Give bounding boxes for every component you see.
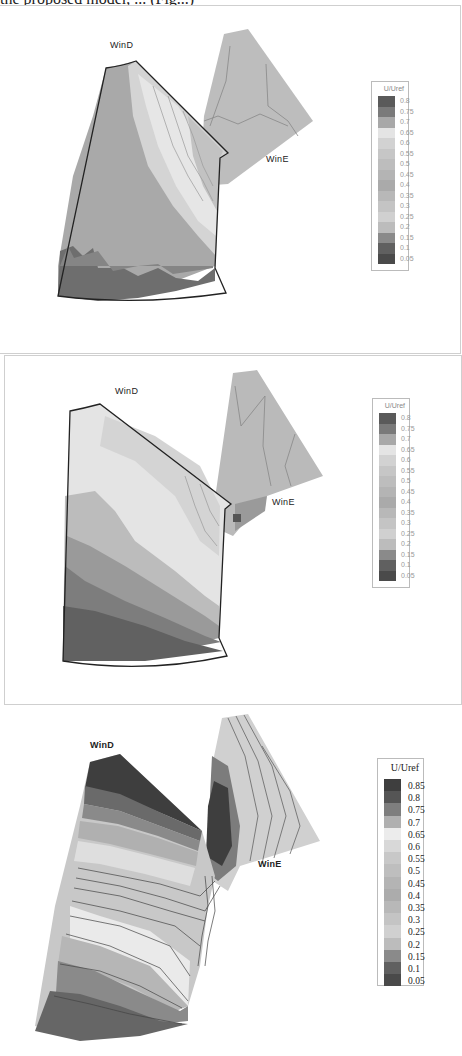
legend-title: U/Uref (384, 85, 404, 92)
legend-swatch (378, 149, 395, 160)
legend-swatch (379, 571, 396, 582)
legend-swatch (384, 803, 401, 815)
legend-swatch (379, 434, 396, 445)
legend-value: 0.1 (401, 561, 411, 568)
legend-value: 0.5 (400, 160, 410, 167)
legend-swatch (378, 159, 395, 170)
legend-value: 0.65 (400, 129, 414, 136)
legend-value: 0.45 (401, 488, 415, 495)
legend-swatch (384, 852, 401, 864)
legend-swatch (384, 816, 401, 828)
legend-value: 0.5 (401, 477, 411, 484)
legend-swatch (378, 128, 395, 139)
legend-value: 0.05 (401, 572, 415, 579)
legend-value: 0.2 (400, 223, 410, 230)
legend-swatch (378, 212, 395, 223)
legend-swatch (379, 518, 396, 529)
legend-value: 0.75 (401, 425, 415, 432)
legend-value: 0.8 (408, 793, 420, 803)
legend-3: U/Uref 0.850.80.750.70.650.60.550.50.450… (377, 758, 424, 986)
legend-swatch (378, 191, 395, 202)
legend-value: 0.2 (401, 540, 411, 547)
legend-swatch (379, 497, 396, 508)
legend-value: 0.55 (401, 467, 415, 474)
legend-value: 0.5 (408, 866, 420, 876)
legend-value: 0.75 (408, 805, 425, 815)
legend-value: 0.15 (408, 952, 425, 962)
legend-swatch (384, 840, 401, 852)
legend-swatch (384, 901, 401, 913)
legend-value: 0.1 (408, 964, 420, 974)
legend-swatch (384, 889, 401, 901)
label-wine: WinE (272, 497, 295, 507)
label-wind: WinD (90, 740, 114, 750)
legend-value: 0.3 (400, 202, 410, 209)
legend-swatch (378, 170, 395, 181)
legend-value: 0.25 (401, 530, 415, 537)
legend-value: 0.45 (400, 171, 414, 178)
legend-value: 0.25 (400, 213, 414, 220)
legend-swatch (378, 96, 395, 107)
legend-swatch (378, 243, 395, 254)
legend-value: 0.6 (400, 139, 410, 146)
legend-value: 0.15 (400, 234, 414, 241)
legend-value: 0.7 (408, 818, 420, 828)
label-wine: WinE (258, 859, 282, 869)
legend-value: 0.4 (400, 181, 410, 188)
legend-swatch (384, 962, 401, 974)
legend-value: 0.8 (400, 97, 410, 104)
legend-swatch (378, 180, 395, 191)
legend-value: 0.4 (401, 498, 411, 505)
legend-value: 0.05 (408, 976, 425, 986)
legend-swatch (378, 107, 395, 118)
panel-2-contour-plot: WinD WinE U/Uref 0.80.750.70.650.60.550.… (4, 355, 462, 705)
legend-value: 0.7 (400, 118, 410, 125)
legend-value: 0.65 (401, 446, 415, 453)
legend-swatch (379, 550, 396, 561)
label-wind: WinD (115, 386, 138, 396)
legend-value: 0.35 (400, 192, 414, 199)
legend-swatch (379, 508, 396, 519)
legend-swatch (378, 222, 395, 233)
legend-swatch (379, 455, 396, 466)
legend-value: 0.75 (400, 108, 414, 115)
legend-swatch (379, 539, 396, 550)
legend-swatch (384, 791, 401, 803)
legend-swatch (379, 413, 396, 424)
panel-3-contour-plot: WinD WinE U/Uref 0.850.80.750.70.650.60.… (0, 706, 462, 1056)
legend-value: 0.6 (408, 842, 420, 852)
legend-value: 0.3 (401, 519, 411, 526)
legend-swatch (379, 529, 396, 540)
legend-value: 0.35 (401, 509, 415, 516)
legend-swatch (384, 864, 401, 876)
legend-swatch (379, 466, 396, 477)
legend-value: 0.6 (401, 456, 411, 463)
legend-value: 0.05 (400, 255, 414, 262)
legend-swatch (379, 476, 396, 487)
legend-swatch (384, 938, 401, 950)
legend-value: 0.55 (408, 854, 425, 864)
label-wine: WinE (266, 154, 289, 164)
legend-swatch (379, 424, 396, 435)
legend-value: 0.35 (408, 903, 425, 913)
legend-value: 0.65 (408, 830, 425, 840)
legend-swatch (378, 254, 395, 265)
legend-swatch (378, 201, 395, 212)
label-wind: WinD (110, 40, 133, 50)
legend-swatch (378, 233, 395, 244)
legend-value: 0.4 (408, 891, 420, 901)
legend-swatch (379, 560, 396, 571)
legend-title: U/Uref (385, 402, 405, 409)
legend-swatch (384, 877, 401, 889)
legend-swatch (384, 779, 401, 791)
legend-value: 0.7 (401, 435, 411, 442)
panel-1-contour-plot: WinD WinE U/Uref 0.80.750.70.650.60.550.… (0, 5, 461, 354)
legend-swatch (384, 828, 401, 840)
legend-value: 0.85 (408, 781, 425, 791)
legend-swatch (378, 117, 395, 128)
legend-swatch (384, 974, 401, 986)
legend-title: U/Uref (391, 762, 419, 773)
legend-value: 0.25 (408, 927, 425, 937)
legend-swatch (384, 950, 401, 962)
legend-swatch (384, 925, 401, 937)
